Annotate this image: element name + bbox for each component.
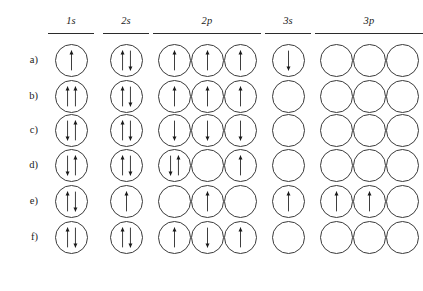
orbital-3s-1-row-d	[272, 149, 305, 182]
orbital-3p-2-row-f	[353, 221, 386, 254]
orbital-2p-2-row-d	[191, 149, 224, 182]
orbital-3p-1-row-e	[320, 185, 353, 218]
orbital-3s-1-row-a	[272, 44, 305, 77]
orbital-3s-1-row-b	[272, 80, 305, 113]
orbital-2p-2-row-e	[191, 185, 224, 218]
orbital-3s-1-row-c	[272, 114, 305, 147]
subshell-header-1s: 1s	[48, 14, 94, 34]
row-label-f: f)	[12, 231, 38, 242]
subshell-header-2p: 2p	[153, 14, 261, 34]
orbital-3p-2-row-c	[353, 114, 386, 147]
orbital-2p-1-row-e	[158, 185, 191, 218]
orbital-3p-3-row-f	[386, 221, 419, 254]
orbital-3s-1-row-e	[272, 185, 305, 218]
orbital-3p-1-row-f	[320, 221, 353, 254]
orbital-3p-1-row-b	[320, 80, 353, 113]
orbital-3p-2-row-a	[353, 44, 386, 77]
orbital-3p-1-row-d	[320, 149, 353, 182]
orbital-2p-2-row-a	[191, 44, 224, 77]
subshell-header-3p: 3p	[315, 14, 423, 34]
row-label-d: d)	[12, 159, 38, 170]
orbital-diagram-figure: 1s2s2p3s3p a)b)c)d)e)f)	[0, 0, 423, 291]
orbital-2p-3-row-a	[224, 44, 257, 77]
orbital-2p-2-row-c	[191, 114, 224, 147]
orbital-3p-3-row-b	[386, 80, 419, 113]
orbital-2p-2-row-b	[191, 80, 224, 113]
subshell-header-label: 3p	[315, 14, 423, 28]
subshell-header-label: 3s	[265, 14, 311, 28]
orbital-2p-3-row-d	[224, 149, 257, 182]
row-label-b: b)	[12, 90, 38, 101]
orbital-2s-1-row-c	[110, 114, 143, 147]
orbital-1s-1-row-d	[55, 149, 88, 182]
orbital-2p-3-row-b	[224, 80, 257, 113]
subshell-header-3s: 3s	[265, 14, 311, 34]
orbital-1s-1-row-f	[55, 221, 88, 254]
orbital-1s-1-row-c	[55, 114, 88, 147]
orbital-2p-1-row-f	[158, 221, 191, 254]
orbital-2p-1-row-a	[158, 44, 191, 77]
orbital-3p-2-row-d	[353, 149, 386, 182]
orbital-2p-1-row-b	[158, 80, 191, 113]
orbital-2p-2-row-f	[191, 221, 224, 254]
orbital-3p-3-row-e	[386, 185, 419, 218]
row-label-e: e)	[12, 195, 38, 206]
row-label-c: c)	[12, 124, 38, 135]
row-label-a: a)	[12, 54, 38, 65]
orbital-2p-3-row-f	[224, 221, 257, 254]
orbital-2s-1-row-d	[110, 149, 143, 182]
orbital-3p-2-row-b	[353, 80, 386, 113]
orbital-2p-1-row-d	[158, 149, 191, 182]
orbital-1s-1-row-b	[55, 80, 88, 113]
orbital-2s-1-row-a	[110, 44, 143, 77]
orbital-2p-1-row-c	[158, 114, 191, 147]
orbital-3p-2-row-e	[353, 185, 386, 218]
subshell-header-row: 1s2s2p3s3p	[0, 14, 423, 36]
subshell-header-label: 1s	[48, 14, 94, 28]
orbital-3p-3-row-c	[386, 114, 419, 147]
orbital-3s-1-row-f	[272, 221, 305, 254]
orbital-2s-1-row-b	[110, 80, 143, 113]
orbital-1s-1-row-e	[55, 185, 88, 218]
orbital-2s-1-row-e	[110, 185, 143, 218]
orbital-2s-1-row-f	[110, 221, 143, 254]
orbital-3p-1-row-c	[320, 114, 353, 147]
orbital-3p-3-row-d	[386, 149, 419, 182]
orbital-3p-3-row-a	[386, 44, 419, 77]
subshell-header-label: 2s	[103, 14, 149, 28]
orbital-2p-3-row-e	[224, 185, 257, 218]
orbital-1s-1-row-a	[55, 44, 88, 77]
orbital-3p-1-row-a	[320, 44, 353, 77]
subshell-header-2s: 2s	[103, 14, 149, 34]
subshell-header-label: 2p	[153, 14, 261, 28]
orbital-2p-3-row-c	[224, 114, 257, 147]
